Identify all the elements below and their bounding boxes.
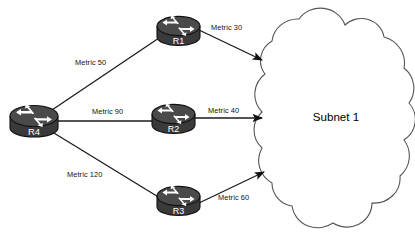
router-r2[interactable]: R2 bbox=[150, 103, 197, 137]
link-r4-r3 bbox=[49, 130, 160, 198]
metric-label-r4-r2: Metric 90 bbox=[92, 108, 123, 115]
router-r1-label: R1 bbox=[173, 36, 185, 46]
link-r1-cloud bbox=[199, 30, 262, 60]
link-r4-r1 bbox=[49, 38, 159, 112]
metric-label-r3-cloud: Metric 60 bbox=[218, 194, 249, 201]
router-r1[interactable]: R1 bbox=[155, 15, 202, 49]
router-r4[interactable]: R4 bbox=[8, 104, 60, 140]
router-r2-label: R2 bbox=[168, 124, 180, 134]
subnet-cloud-label: Subnet 1 bbox=[296, 111, 376, 123]
metric-label-r4-r1: Metric 50 bbox=[75, 59, 106, 66]
router-r3-label: R3 bbox=[173, 206, 185, 216]
metric-label-r1-cloud: Metric 30 bbox=[211, 24, 242, 31]
router-r3[interactable]: R3 bbox=[155, 185, 202, 219]
network-diagram-canvas: R4 R1 bbox=[0, 0, 415, 236]
metric-label-r2-cloud: Metric 40 bbox=[208, 107, 239, 114]
metric-label-r4-r3: Metric 120 bbox=[67, 171, 103, 178]
router-r4-label: R4 bbox=[28, 126, 40, 137]
